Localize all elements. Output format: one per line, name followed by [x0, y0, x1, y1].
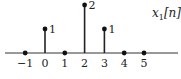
tick-label: 1	[61, 57, 68, 70]
tick-label: 2	[81, 57, 88, 70]
value-label: 1	[108, 23, 115, 36]
value-label: 1	[49, 23, 56, 36]
signal-label: x1[n]	[152, 6, 181, 22]
tick-label: 4	[121, 57, 128, 70]
tick-label: 0	[42, 57, 49, 70]
stem-point	[122, 51, 127, 56]
stem-point	[62, 51, 67, 56]
tick-label: −1	[17, 57, 33, 70]
stem-point	[82, 3, 87, 8]
stem-point	[102, 27, 107, 32]
tick-label: 3	[101, 57, 108, 70]
stem-point	[43, 27, 48, 32]
value-label: 2	[89, 0, 96, 12]
tick-labels: −1012345	[17, 57, 147, 70]
stems: 121	[23, 0, 147, 55]
stem-point	[23, 51, 28, 56]
tick-label: 5	[141, 57, 148, 70]
stem-plot: 121 −1012345 x1[n]	[0, 0, 181, 79]
stem-point	[142, 51, 147, 56]
